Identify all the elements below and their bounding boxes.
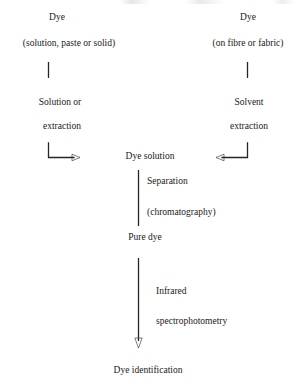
dye-identification-flowchart: Dye (solution, paste or solid) Dye (on f… — [0, 0, 299, 387]
label-analysis-line1: Infrared — [156, 287, 187, 297]
node-right-source: Dye — [240, 13, 256, 23]
node-right-source-detail: (on fibre or fabric) — [213, 39, 284, 49]
label-left-process-line2: extraction — [43, 122, 81, 132]
left-elbow-arrowhead — [72, 154, 80, 161]
node-left-source: Dye — [49, 13, 65, 23]
label-left-process-line1: Solution or — [39, 98, 82, 108]
flowchart-connectors — [0, 0, 299, 387]
analysis-arrowhead — [135, 338, 142, 348]
left-elbow-arrow-line — [49, 143, 75, 158]
label-separation-line2: (chromatography) — [147, 208, 216, 218]
scan-edge-artifact — [0, 0, 299, 4]
node-dye-solution: Dye solution — [126, 152, 175, 162]
node-dye-identification: Dye identification — [114, 366, 183, 376]
label-separation-line1: Separation — [147, 177, 188, 187]
label-right-process-line1: Solvent — [234, 98, 263, 108]
label-right-process-line2: extraction — [230, 122, 268, 132]
right-elbow-arrowhead — [216, 154, 224, 161]
node-left-source-detail: (solution, paste or solid) — [23, 39, 115, 49]
right-elbow-arrow-line — [222, 143, 248, 158]
node-pure-dye: Pure dye — [128, 233, 162, 243]
label-analysis-line2: spectrophotometry — [156, 317, 227, 327]
